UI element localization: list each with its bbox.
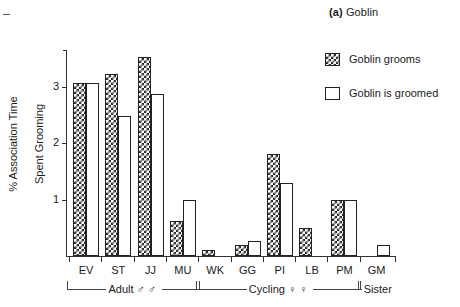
y-tick-label-3: 3 — [53, 80, 59, 93]
x-tick-ev — [69, 257, 70, 262]
y-axis-title-line2: Spent Grooming — [33, 104, 45, 184]
bar-ev-grooms — [73, 83, 86, 256]
x-tick-end — [395, 257, 396, 262]
x-axis-label-ev: EV — [71, 264, 101, 276]
group-label-sister: Sister — [364, 283, 392, 295]
group-label-cycling-females: Cycling ♀ ♀ — [249, 283, 308, 295]
x-tick-st — [101, 257, 102, 262]
x-axis-label-st: ST — [103, 264, 133, 276]
bar-jj-is-groomed — [151, 94, 164, 256]
bar-wk-grooms — [202, 250, 215, 256]
y-axis-title: % Association Time Spent Grooming — [0, 84, 46, 204]
x-tick-jj — [134, 257, 135, 262]
y-tick-label-2: 2 — [53, 136, 59, 149]
bar-pm-is-groomed — [344, 200, 357, 257]
bar-gm-is-groomed — [377, 245, 390, 256]
bars-layer — [66, 0, 396, 256]
bar-gg-is-groomed — [248, 241, 261, 256]
bracket-line-left — [68, 289, 106, 290]
bar-st-is-groomed — [118, 116, 131, 256]
x-axis-label-pm: PM — [329, 264, 359, 276]
bar-pm-grooms — [331, 200, 344, 257]
bracket-line-right — [162, 289, 200, 290]
bar-pi-is-groomed — [280, 183, 293, 256]
x-axis-label-jj: JJ — [136, 264, 166, 276]
group-bracket-sister — [358, 281, 359, 290]
x-axis-label-pi: PI — [265, 264, 295, 276]
x-axis-label-gg: GG — [233, 264, 263, 276]
x-tick-wk — [198, 257, 199, 262]
bar-lb-grooms — [299, 228, 312, 256]
bar-mu-is-groomed — [183, 200, 196, 257]
bar-mu-grooms — [170, 221, 183, 256]
chart-plot-area: % Association Time Spent Grooming 1 2 3 … — [0, 0, 460, 307]
x-tick-lb — [295, 257, 296, 262]
x-tick-gm — [360, 257, 361, 262]
bar-pi-grooms — [267, 154, 280, 256]
bar-ev-is-groomed — [86, 83, 99, 256]
bracket-line-left — [197, 289, 247, 290]
x-tick-gg — [231, 257, 232, 262]
x-axis-label-wk: WK — [200, 264, 230, 276]
x-tick-pm — [327, 257, 328, 262]
x-tick-mu — [166, 257, 167, 262]
x-axis-label-mu: MU — [168, 264, 198, 276]
y-tick-label-1: 1 — [53, 193, 59, 206]
x-axis-label-lb: LB — [297, 264, 327, 276]
bar-jj-grooms — [138, 57, 151, 256]
bracket-line-right — [313, 289, 363, 290]
x-axis-label-gm: GM — [362, 264, 392, 276]
group-label-adult-males: Adult ♂ ♂ — [108, 283, 156, 295]
x-tick-pi — [263, 257, 264, 262]
y-axis-title-line1: % Association Time — [7, 96, 19, 191]
bar-st-grooms — [105, 74, 118, 256]
bar-gg-grooms — [235, 245, 248, 256]
